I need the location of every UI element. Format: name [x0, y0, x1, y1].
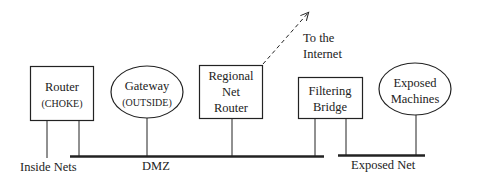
exposed-label-line2: Machines	[391, 92, 440, 106]
gateway-outside-node: Gateway (OUTSIDE)	[111, 66, 183, 118]
exposed-net-label: Exposed Net	[351, 158, 416, 172]
bridge-label-line1: Filtering	[308, 84, 352, 98]
network-diagram: Router (CHOKE) Gateway (OUTSIDE) Regiona…	[0, 0, 477, 180]
router-sublabel: (CHOKE)	[41, 98, 82, 110]
internet-label-line1: To the	[303, 31, 335, 45]
router-label: Router	[45, 80, 80, 94]
regional-label-line2: Net	[222, 85, 241, 99]
dmz-label: DMZ	[142, 159, 170, 173]
gateway-label: Gateway	[125, 79, 170, 93]
internet-arrow-icon	[263, 13, 308, 64]
router-choke-node: Router (CHOKE)	[31, 67, 94, 121]
inside-nets-label: Inside Nets	[20, 160, 77, 174]
bridge-label-line2: Bridge	[313, 100, 347, 114]
internet-label-line2: Internet	[303, 47, 342, 61]
filtering-bridge-node: Filtering Bridge	[299, 78, 363, 119]
regional-net-router-node: Regional Net Router	[200, 66, 263, 119]
regional-label-line1: Regional	[208, 69, 254, 83]
regional-label-line3: Router	[214, 101, 249, 115]
exposed-label-line1: Exposed	[393, 76, 437, 90]
gateway-sublabel: (OUTSIDE)	[122, 97, 171, 109]
exposed-machines-node: Exposed Machines	[379, 63, 451, 115]
